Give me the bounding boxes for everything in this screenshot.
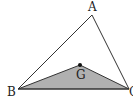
label-b: B [7,85,16,98]
label-c: C [129,85,133,98]
triangle-diagram: A B C G [0,0,133,98]
shaded-triangle-bgc [18,65,129,89]
point-g [78,63,82,67]
label-g: G [76,68,86,82]
label-a: A [87,0,97,14]
